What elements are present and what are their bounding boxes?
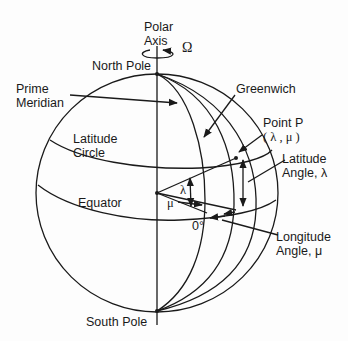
label-line: Polar bbox=[144, 20, 173, 34]
label-line: Angle, μ bbox=[276, 244, 322, 258]
point-p-label: Point P( λ , μ ) bbox=[263, 116, 303, 144]
label-line: Latitude bbox=[282, 152, 326, 166]
label-line: Circle bbox=[73, 146, 105, 160]
lambda-symbol: λ bbox=[180, 183, 186, 197]
label-line: ( λ , μ ) bbox=[263, 130, 300, 144]
label-line: Point P bbox=[263, 116, 303, 130]
equator-label: Equator bbox=[78, 196, 122, 210]
latitude-angle-label: LatitudeAngle, λ bbox=[282, 152, 327, 180]
greenwich-meridian-arc bbox=[157, 74, 234, 311]
label-line: Longitude bbox=[276, 230, 331, 244]
polar-axis-label: PolarAxis bbox=[144, 20, 173, 48]
label-line: Prime bbox=[16, 82, 49, 96]
mu-symbol: μ bbox=[167, 196, 174, 210]
omega-label: Ω bbox=[182, 41, 192, 55]
label-line: Angle, λ bbox=[282, 166, 327, 180]
label-line: Latitude bbox=[73, 132, 117, 146]
south-pole-label: South Pole bbox=[86, 315, 147, 329]
zero-degree-label: 0° bbox=[192, 219, 204, 233]
label-line: Axis bbox=[144, 34, 168, 48]
label-line: Meridian bbox=[16, 96, 64, 110]
greenwich-label: Greenwich bbox=[236, 82, 296, 96]
celestial-sphere-diagram: PolarAxis Ω North Pole PrimeMeridian Gre… bbox=[0, 0, 348, 341]
latitude-circle-label: LatitudeCircle bbox=[73, 132, 117, 160]
longitude-angle-label: LongitudeAngle, μ bbox=[276, 230, 331, 258]
prime-meridian-label: PrimeMeridian bbox=[16, 82, 64, 110]
north-pole-label: North Pole bbox=[92, 59, 151, 73]
